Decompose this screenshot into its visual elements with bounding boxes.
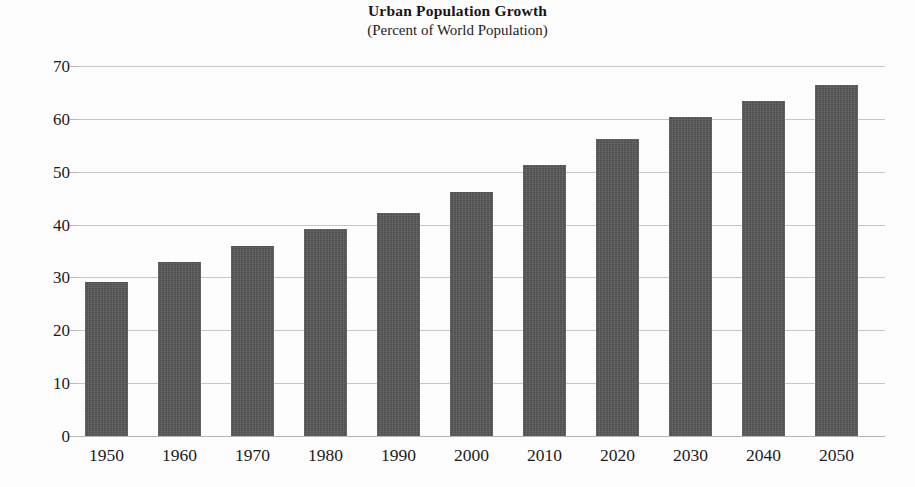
x-axis-tick-label: 1970	[215, 444, 290, 466]
y-axis-tick-label: 30	[24, 269, 70, 286]
y-axis-tick-label: 70	[24, 58, 70, 75]
bar-series	[78, 66, 885, 436]
x-axis-tick-label: 2000	[434, 444, 509, 466]
x-axis-tick-label: 1950	[69, 444, 144, 466]
x-axis-tick-label: 2050	[799, 444, 874, 466]
bar	[742, 101, 785, 436]
y-axis-tick	[70, 225, 78, 226]
bar	[669, 117, 712, 436]
urban-population-growth-chart: Urban Population Growth (Percent of Worl…	[0, 0, 915, 487]
x-axis-tick-label: 1960	[142, 444, 217, 466]
x-axis-tick-label: 2020	[580, 444, 655, 466]
x-axis-tick-label: 2030	[653, 444, 728, 466]
bar	[85, 282, 128, 436]
bar	[377, 213, 420, 436]
gridline	[78, 436, 885, 437]
y-axis-tick	[70, 383, 78, 384]
plot-area	[78, 62, 885, 440]
y-axis-tick-label: 40	[24, 217, 70, 234]
y-axis-tick	[70, 172, 78, 173]
bar	[523, 165, 566, 436]
y-axis-tick-label: 50	[24, 164, 70, 181]
bar	[450, 192, 493, 436]
chart-subtitle: (Percent of World Population)	[0, 20, 915, 40]
chart-title-block: Urban Population Growth (Percent of Worl…	[0, 1, 915, 40]
x-axis-tick-label: 1980	[288, 444, 363, 466]
bar	[304, 229, 347, 436]
bar	[231, 246, 274, 436]
y-axis-tick-label: 0	[24, 428, 70, 445]
bar	[815, 85, 858, 437]
y-axis-tick	[70, 330, 78, 331]
y-axis-tick	[70, 277, 78, 278]
y-axis-tick-label: 20	[24, 322, 70, 339]
page-title: Urban Population Growth	[0, 1, 915, 20]
x-axis-labels: 1950196019701980199020002010202020302040…	[78, 444, 885, 474]
bar	[158, 262, 201, 436]
x-axis-tick-label: 2040	[726, 444, 801, 466]
x-axis-tick-label: 2010	[507, 444, 582, 466]
y-axis-tick-label: 10	[24, 375, 70, 392]
y-axis-tick-label: 60	[24, 111, 70, 128]
x-axis-tick-label: 1990	[361, 444, 436, 466]
bar	[596, 139, 639, 436]
y-axis-tick	[70, 436, 78, 437]
y-axis-tick	[70, 119, 78, 120]
y-axis-labels: 010203040506070	[22, 66, 70, 436]
y-axis-tick	[70, 66, 78, 67]
